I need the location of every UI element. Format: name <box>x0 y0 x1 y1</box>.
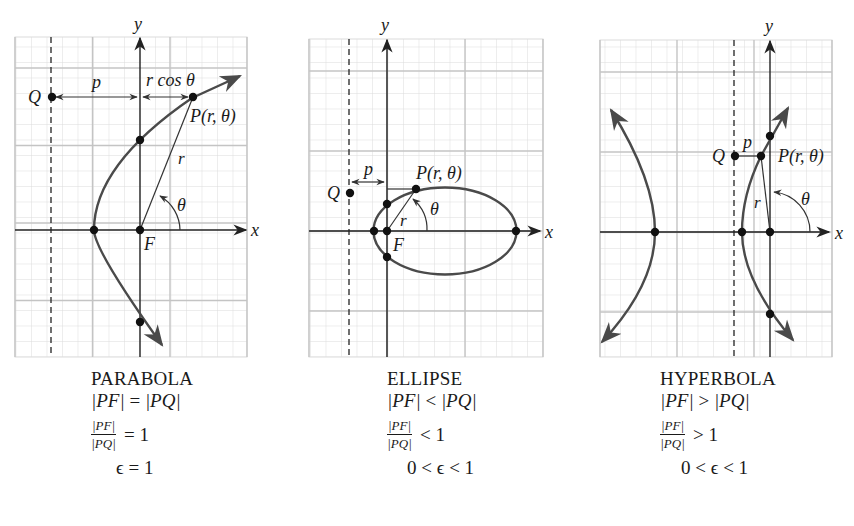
relation-lhs: |PF| <box>387 390 421 411</box>
label-r: r <box>754 193 761 212</box>
label-q: Q <box>712 146 725 166</box>
point-y-intercept-bottom <box>383 253 391 261</box>
grid <box>600 40 832 357</box>
hyperbola-caption: HYPERBOLA |PF| > |PQ| |PF| |PQ| > 1 0 < … <box>660 369 776 479</box>
point-q <box>48 93 56 101</box>
label-p-distance: p <box>362 159 373 179</box>
caption-title: ELLIPSE <box>387 369 477 389</box>
ratio-value: = 1 <box>124 424 149 446</box>
ratio-numerator: |PF| <box>660 418 685 435</box>
point-y-intercept-bottom <box>766 310 774 318</box>
label-p-distance: p <box>741 132 752 152</box>
ratio-denominator: |PQ| <box>660 435 684 451</box>
point-right-vertex <box>738 228 746 236</box>
ratio-denominator: |PQ| <box>387 435 411 451</box>
point-p <box>757 152 765 160</box>
relation-rhs: |PQ| <box>714 390 750 411</box>
label-point-p: P(r, θ) <box>189 106 236 127</box>
ratio-row: |PF| |PQ| > 1 <box>660 418 776 451</box>
point-vertex <box>90 226 98 234</box>
caption-title: PARABOLA <box>91 369 193 389</box>
y-axis-label: y <box>132 14 142 34</box>
point-focus <box>383 227 391 235</box>
ratio-numerator: |PF| <box>91 418 116 435</box>
label-r: r <box>178 149 185 168</box>
eccentricity: ϵ = 1 <box>116 457 193 479</box>
label-q: Q <box>327 183 340 203</box>
label-p-distance: p <box>90 72 101 92</box>
point-q <box>731 152 739 160</box>
relation-operator: > <box>698 390 709 411</box>
ratio-denominator: |PQ| <box>91 435 115 451</box>
label-theta: θ <box>430 199 439 219</box>
grid <box>309 39 543 357</box>
caption-relation: |PF| > |PQ| <box>660 390 776 412</box>
point-y-intercept-bottom <box>136 318 144 326</box>
eccentricity: 0 < ϵ < 1 <box>681 457 776 479</box>
point-left-vertex <box>370 227 378 235</box>
ratio-fraction: |PF| |PQ| <box>91 418 116 451</box>
label-focus: F <box>392 235 405 255</box>
caption-relation: |PF| = |PQ| <box>91 390 193 412</box>
eccentricity: 0 < ϵ < 1 <box>407 457 477 479</box>
relation-rhs: |PQ| <box>145 390 181 411</box>
relation-lhs: |PF| <box>91 390 125 411</box>
point-q <box>346 189 354 197</box>
x-axis-label: x <box>250 220 259 240</box>
x-axis-label: x <box>544 222 553 242</box>
ellipse-caption: ELLIPSE |PF| < |PQ| |PF| |PQ| < 1 0 < ϵ … <box>387 369 477 479</box>
y-axis-label: y <box>379 15 389 35</box>
point-y-intercept-top <box>383 200 391 208</box>
relation-operator: = <box>129 390 140 411</box>
label-point-p: P(r, θ) <box>777 146 824 167</box>
ratio-row: |PF| |PQ| = 1 <box>91 418 193 451</box>
ratio-value: > 1 <box>693 424 718 446</box>
label-point-p: P(r, θ) <box>415 163 462 184</box>
grid <box>15 37 247 357</box>
ellipse-panel: x y Q p P(r, θ) r θ F <box>309 15 553 357</box>
parabola-panel: x y Q p r cos θ P(r, θ) r θ F <box>15 14 259 357</box>
point-left-vertex <box>651 228 659 236</box>
relation-rhs: |PQ| <box>441 390 477 411</box>
point-focus <box>136 226 144 234</box>
point-y-intercept-top <box>136 136 144 144</box>
point-p <box>189 93 197 101</box>
x-axis-label: x <box>834 223 843 243</box>
point-focus <box>766 228 774 236</box>
ratio-numerator: |PF| <box>387 418 412 435</box>
relation-lhs: |PF| <box>660 390 694 411</box>
caption-relation: |PF| < |PQ| <box>387 390 477 412</box>
label-r: r <box>400 211 407 230</box>
ratio-fraction: |PF| |PQ| <box>387 418 412 451</box>
caption-title: HYPERBOLA <box>660 369 776 389</box>
point-right-vertex <box>512 227 520 235</box>
label-theta: θ <box>801 189 810 209</box>
ratio-row: |PF| |PQ| < 1 <box>387 418 477 451</box>
point-p <box>412 185 420 193</box>
y-axis-label: y <box>763 16 773 36</box>
point-y-intercept-top <box>766 132 774 140</box>
relation-operator: < <box>425 390 436 411</box>
ratio-fraction: |PF| |PQ| <box>660 418 685 451</box>
ratio-value: < 1 <box>420 424 445 446</box>
parabola-caption: PARABOLA |PF| = |PQ| |PF| |PQ| = 1 ϵ = 1 <box>91 369 193 479</box>
label-focus: F <box>143 234 156 254</box>
label-theta: θ <box>177 195 186 215</box>
label-q: Q <box>28 87 41 107</box>
label-rcos: r cos θ <box>146 70 195 90</box>
hyperbola-panel: x y Q p P(r, θ) r θ <box>600 16 843 357</box>
